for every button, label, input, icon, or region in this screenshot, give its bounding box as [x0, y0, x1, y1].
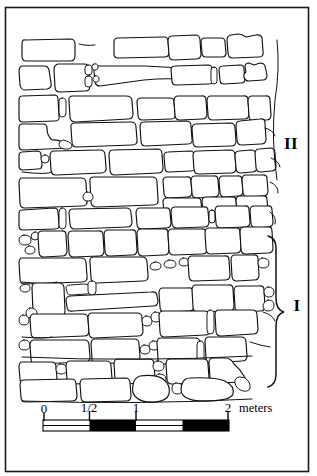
stone — [19, 95, 59, 122]
phase-label-two: II — [284, 134, 298, 153]
stone-chip — [142, 316, 152, 326]
stone — [69, 208, 132, 229]
stone-chip — [235, 377, 250, 391]
stone-chip — [209, 210, 215, 223]
stone — [133, 375, 170, 402]
stone-chip — [19, 315, 29, 325]
mortar-seam — [79, 44, 95, 45]
stone-chip — [59, 98, 66, 117]
stone-chip — [25, 246, 35, 254]
stone — [50, 150, 106, 175]
stone-chip — [85, 65, 92, 75]
stone-chip — [88, 281, 96, 295]
stone — [159, 288, 194, 312]
stone-chip — [59, 140, 72, 149]
stone — [168, 35, 201, 60]
stone-chip — [153, 361, 164, 371]
stone — [236, 119, 266, 145]
stone — [114, 37, 169, 58]
figure-canvas: II I 0 1/2 1 2 meters — [0, 0, 317, 476]
mortar-seam — [250, 342, 270, 347]
stone — [215, 310, 258, 336]
stone — [20, 379, 77, 402]
stone-chip — [20, 284, 30, 292]
stone — [30, 314, 89, 338]
stone-chip — [264, 287, 274, 297]
stone-chip — [56, 364, 67, 374]
stone-chip — [211, 67, 217, 84]
scale-label-2: 2 — [225, 400, 232, 415]
stone — [90, 177, 158, 207]
stone-chip — [19, 340, 30, 350]
scale-label-0: 0 — [41, 401, 48, 416]
mortar-seam — [270, 182, 278, 193]
stone — [19, 151, 42, 170]
scale-label-1: 1 — [133, 400, 140, 415]
stone — [164, 151, 195, 172]
stone — [163, 177, 192, 198]
stone — [201, 38, 226, 57]
stone — [231, 255, 259, 281]
stone — [136, 208, 171, 229]
stone — [192, 123, 236, 147]
stone — [68, 231, 104, 257]
stone — [205, 228, 241, 254]
stone — [88, 313, 143, 338]
stone-chip — [83, 192, 93, 201]
stone — [193, 150, 236, 174]
stone — [168, 229, 207, 255]
wall-elevation-figure: II I 0 1/2 1 2 meters — [0, 0, 317, 476]
stone-chip — [59, 208, 66, 229]
stone-chip — [19, 235, 31, 245]
stone — [137, 229, 169, 256]
stone-chip — [85, 76, 92, 87]
masonry-wall — [19, 34, 280, 403]
stone — [215, 206, 250, 228]
stone-chip — [66, 284, 89, 295]
stone — [19, 208, 59, 230]
mortar-seam — [22, 172, 52, 174]
stone — [191, 176, 219, 198]
mortar-seam — [263, 312, 275, 321]
stone — [19, 178, 87, 208]
stone-chip — [164, 260, 176, 268]
stone — [255, 148, 276, 172]
stone — [38, 231, 67, 257]
stone — [181, 378, 233, 401]
scale-units-label: meters — [239, 401, 272, 415]
stone — [137, 98, 175, 120]
stone — [207, 96, 249, 120]
stone — [69, 96, 133, 122]
stone — [240, 227, 273, 254]
stone — [250, 206, 273, 228]
stone — [235, 150, 257, 173]
stone — [22, 39, 75, 61]
stone — [30, 340, 90, 364]
stone — [174, 96, 207, 120]
stone — [242, 175, 268, 197]
stone — [188, 256, 230, 281]
stone — [171, 207, 209, 228]
stone — [227, 34, 263, 58]
stone — [234, 286, 265, 312]
stone-chip — [150, 262, 161, 270]
stone — [244, 63, 267, 81]
stone-chip — [93, 76, 100, 83]
stone-chip — [92, 64, 99, 71]
stone — [171, 65, 213, 85]
stone — [19, 258, 87, 284]
stone — [71, 122, 137, 147]
stone — [80, 378, 131, 402]
stone — [104, 230, 137, 256]
stone — [19, 66, 51, 90]
phase-one-brace — [268, 236, 284, 387]
phase-label-one: I — [293, 296, 300, 315]
stone-chip — [207, 310, 214, 334]
scale-bar: 0 1/2 1 2 meters — [41, 400, 273, 431]
stone-chip — [263, 300, 274, 311]
stone-chip — [258, 258, 269, 268]
scale-label-half: 1/2 — [81, 400, 98, 415]
stone — [192, 285, 234, 312]
stone — [219, 176, 243, 197]
stone — [159, 311, 210, 337]
